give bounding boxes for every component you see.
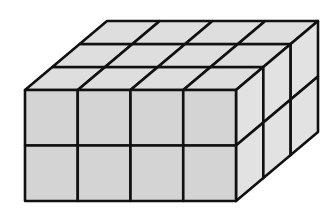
prism-figure xyxy=(0,0,335,216)
front-cube-face xyxy=(131,146,184,202)
front-cube-face xyxy=(78,90,131,146)
front-cube-face xyxy=(131,90,184,146)
cube-prism-diagram xyxy=(0,0,335,216)
front-cube-face xyxy=(183,90,236,146)
front-cube-face xyxy=(78,146,131,202)
front-cube-face xyxy=(25,146,78,202)
front-face xyxy=(25,90,236,201)
front-cube-face xyxy=(25,90,78,146)
front-cube-face xyxy=(183,146,236,202)
